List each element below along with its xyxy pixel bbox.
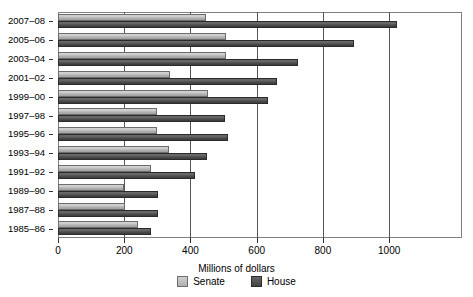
bar-house xyxy=(58,21,397,28)
x-axis-tick xyxy=(389,238,390,243)
x-axis-tick xyxy=(257,238,258,243)
legend-item: Senate xyxy=(177,276,225,287)
x-axis-tick xyxy=(323,238,324,243)
bar-house xyxy=(58,228,151,235)
y-axis-tick xyxy=(49,116,53,117)
y-axis-tick xyxy=(49,229,53,230)
y-axis-tick xyxy=(49,191,53,192)
y-axis-tick-label: 1995–96 xyxy=(8,129,45,139)
x-axis-tick xyxy=(190,238,191,243)
bar-house xyxy=(58,210,158,217)
legend-label: Senate xyxy=(193,276,225,287)
legend-item: House xyxy=(251,276,296,287)
bar-senate xyxy=(58,127,157,134)
y-axis-tick xyxy=(49,78,53,79)
plot-area xyxy=(58,12,462,238)
bar-senate xyxy=(58,203,125,210)
y-axis-tick xyxy=(49,153,53,154)
bar-house xyxy=(58,172,195,179)
y-axis-tick-label: 2007–08 xyxy=(8,16,45,26)
x-axis-tick xyxy=(58,238,59,243)
y-axis-tick-label: 2005–06 xyxy=(8,35,45,45)
x-axis-tick-label: 0 xyxy=(55,245,61,256)
legend-label: House xyxy=(267,276,296,287)
y-axis-tick-label: 1991–92 xyxy=(8,167,45,177)
bar-chart: 2007–082005–062003–042001–021999–001997–… xyxy=(0,0,473,297)
x-axis-tick-label: 400 xyxy=(182,245,199,256)
gridline xyxy=(389,12,390,238)
bar-senate xyxy=(58,90,208,97)
y-axis-tick xyxy=(49,172,53,173)
x-axis-tick-label: 600 xyxy=(248,245,265,256)
x-axis-title: Millions of dollars xyxy=(0,263,473,274)
legend-swatch-house xyxy=(251,276,262,287)
y-axis-tick-label: 1999–00 xyxy=(8,92,45,102)
bar-senate xyxy=(58,146,169,153)
x-axis-tick-label: 800 xyxy=(315,245,332,256)
y-axis-labels: 2007–082005–062003–042001–021999–001997–… xyxy=(0,12,53,238)
x-axis-tick-label: 200 xyxy=(116,245,133,256)
y-axis-tick xyxy=(49,21,53,22)
y-axis-tick xyxy=(49,97,53,98)
bar-house xyxy=(58,134,228,141)
y-axis-tick-label: 1993–94 xyxy=(8,148,45,158)
y-axis-tick-label: 1997–98 xyxy=(8,111,45,121)
y-axis-tick-label: 2001–02 xyxy=(8,73,45,83)
bar-senate xyxy=(58,33,226,40)
y-axis-tick xyxy=(49,40,53,41)
x-axis-tick xyxy=(124,238,125,243)
bar-senate xyxy=(58,14,206,21)
y-axis-tick xyxy=(49,210,53,211)
y-axis-tick-label: 1989–90 xyxy=(8,186,45,196)
bar-house xyxy=(58,78,277,85)
bar-house xyxy=(58,191,158,198)
bar-senate xyxy=(58,221,138,228)
bar-senate xyxy=(58,52,226,59)
bar-senate xyxy=(58,184,124,191)
x-axis-tick-label: 1000 xyxy=(378,245,400,256)
y-axis-tick-label: 1987–88 xyxy=(8,205,45,215)
bar-senate xyxy=(58,165,151,172)
y-axis-tick-label: 2003–04 xyxy=(8,54,45,64)
y-axis-tick xyxy=(49,134,53,135)
bar-senate xyxy=(58,71,170,78)
bar-senate xyxy=(58,108,157,115)
bar-house xyxy=(58,97,268,104)
bar-house xyxy=(58,153,207,160)
bar-house xyxy=(58,40,354,47)
bar-house xyxy=(58,59,298,66)
y-axis-tick-label: 1985–86 xyxy=(8,224,45,234)
y-axis-tick xyxy=(49,59,53,60)
chart-legend: SenateHouse xyxy=(0,276,473,287)
legend-swatch-senate xyxy=(177,276,188,287)
bar-house xyxy=(58,115,225,122)
